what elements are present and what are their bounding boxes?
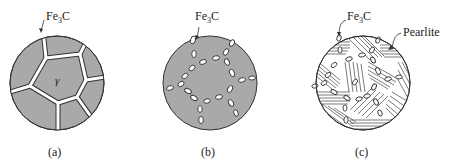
annotation-arrow-line bbox=[339, 20, 346, 34]
caption-c: (c) bbox=[355, 145, 368, 159]
fe3c-label-b: Fe3C bbox=[195, 9, 219, 25]
phase-label-gamma: γ bbox=[55, 74, 60, 86]
arrow-head-icon bbox=[39, 28, 43, 33]
panel-b: Fe3C (b) bbox=[163, 9, 257, 159]
fe3c-label-a: Fe3C bbox=[46, 9, 70, 25]
matrix-circle bbox=[163, 36, 257, 130]
microstructure-diagram: γ Fe3C (a) bbox=[0, 0, 453, 164]
panel-a: γ Fe3C (a) bbox=[10, 9, 112, 159]
fe3c-label-c: Fe3C bbox=[347, 9, 371, 25]
pearlite-label: Pearlite bbox=[403, 25, 440, 39]
caption-b: (b) bbox=[201, 145, 215, 159]
panel-c: Fe3C Pearlite (c) bbox=[311, 9, 439, 159]
pearlite-arrow-line bbox=[392, 33, 401, 48]
caption-a: (a) bbox=[48, 145, 61, 159]
